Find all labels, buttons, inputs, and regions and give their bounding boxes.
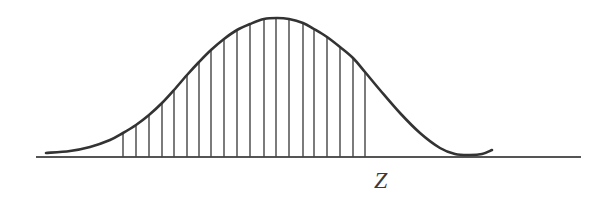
bell-curve (46, 18, 492, 155)
z-value-label: Z (374, 168, 387, 192)
normal-curve-diagram (0, 0, 609, 201)
